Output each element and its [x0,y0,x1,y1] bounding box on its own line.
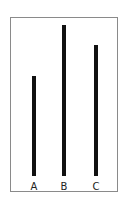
label-a: A [26,182,42,192]
bar-a [32,76,36,176]
bar-b [62,25,66,176]
bar-c [94,45,98,176]
label-b: B [56,182,72,192]
label-c: C [88,182,104,192]
